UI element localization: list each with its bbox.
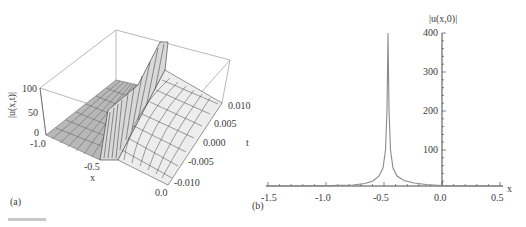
- surface-plot-svg: [0, 0, 263, 227]
- x-tick-neg10: -1.0: [315, 192, 331, 203]
- t-tick-0000: 0.000: [203, 137, 226, 148]
- z-tick-100: 100: [22, 83, 37, 94]
- t-tick-0005: 0.005: [214, 118, 237, 129]
- x-tick-00: 0.0: [434, 192, 447, 203]
- panel-a-label: (a): [10, 196, 21, 207]
- x-tick-neg05: -0.5: [373, 192, 389, 203]
- z-tick-50: 50: [28, 107, 38, 118]
- x-tick-0: 0.0: [155, 187, 168, 198]
- y-ticks: [442, 33, 446, 181]
- x-tick-05: 0.5: [491, 192, 504, 203]
- x-tick-neg1: -1.0: [30, 138, 46, 149]
- z-axis-label: |u(x,t)|: [6, 92, 17, 118]
- y-tick-200: 200: [423, 105, 438, 116]
- x-axis-label: x: [90, 172, 95, 183]
- caption-fragment: [8, 218, 46, 221]
- y-tick-300: 300: [423, 66, 438, 77]
- panel-b-label: (b): [252, 200, 264, 211]
- y-axis-label: |u(x,0)|: [429, 13, 457, 24]
- t-tick-0010: 0.010: [228, 100, 251, 111]
- surface-plot-panel-a: 100 50 0 |u(x,t)| -1.0 -0.5 x 0.0 0.010 …: [0, 0, 263, 227]
- line-plot-panel-b: -1.5 -1.0 -0.5 0.0 0.5 x 400 300 200 100…: [263, 0, 526, 227]
- y-tick-100: 100: [423, 144, 438, 155]
- series-line-u-x0: [266, 33, 503, 186]
- axes: [266, 33, 503, 186]
- x-axis-label: x: [507, 183, 512, 194]
- t-axis-label: t: [246, 137, 249, 148]
- line-plot-svg: [263, 0, 526, 227]
- x-tick-neg05: -0.5: [84, 161, 100, 172]
- z-axis: [40, 88, 46, 135]
- y-tick-400: 400: [423, 27, 438, 38]
- z-tick-0: 0: [34, 127, 39, 138]
- t-tick-neg0005: -0.005: [188, 156, 214, 167]
- t-tick-neg0010: -0.010: [174, 177, 200, 188]
